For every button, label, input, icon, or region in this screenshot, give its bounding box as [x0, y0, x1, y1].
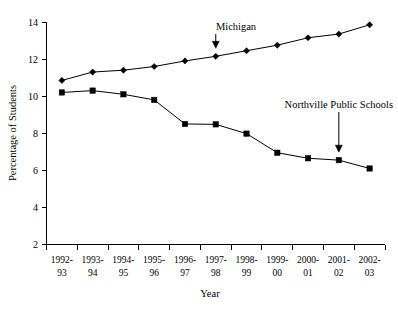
data-point-marker-square — [152, 97, 157, 102]
data-point-marker-square — [367, 166, 372, 171]
data-point-marker-diamond — [90, 69, 96, 75]
x-tick-marks — [47, 245, 386, 250]
x-tick-label: 00 — [273, 268, 283, 278]
y-tick-label: 10 — [28, 91, 38, 102]
x-tick-label: 1992- — [51, 255, 73, 265]
x-tick-label: 93 — [57, 268, 67, 278]
data-point-marker-square — [182, 121, 187, 126]
x-tick-label: 97 — [180, 268, 190, 278]
data-point-marker-diamond — [213, 53, 219, 59]
x-tick-label: 95 — [119, 268, 129, 278]
y-tick-labels: 14 12 10 8 6 4 2 — [28, 17, 38, 250]
y-tick-label: 14 — [28, 17, 38, 28]
data-point-marker-square — [244, 131, 249, 136]
y-tick-label: 6 — [33, 165, 38, 176]
data-point-marker-diamond — [274, 42, 280, 48]
data-point-marker-diamond — [243, 48, 249, 54]
x-axis-title: Year — [200, 288, 220, 299]
data-point-marker-diamond — [120, 67, 126, 73]
data-point-marker-diamond — [336, 31, 342, 37]
x-tick-label: 96 — [149, 268, 159, 278]
x-tick-label: 1996- — [174, 255, 196, 265]
x-tick-label: 1998- — [235, 255, 257, 265]
x-tick-label: 02 — [334, 268, 344, 278]
y-axis-title: Percentage of Students — [7, 85, 18, 181]
y-tick-label: 8 — [33, 128, 38, 139]
data-point-marker-diamond — [182, 58, 188, 64]
series-line — [62, 25, 370, 81]
data-point-marker-square — [90, 88, 95, 93]
line-chart: 14 12 10 8 6 4 2 1992-931993-941994-9519… — [0, 0, 398, 310]
annotation-michigan: Michigan — [212, 21, 257, 48]
data-point-marker-square — [305, 156, 310, 161]
data-point-marker-diamond — [305, 35, 311, 41]
x-tick-label: 98 — [211, 268, 221, 278]
y-tick-label: 2 — [33, 239, 38, 250]
x-tick-labels: 1992-931993-941994-951995-961996-971997-… — [51, 255, 381, 278]
data-point-marker-square — [275, 150, 280, 155]
y-tick-marks — [42, 23, 47, 245]
annotation-northville: Northville Public Schools — [285, 99, 394, 152]
x-tick-label: 1994- — [112, 255, 134, 265]
x-tick-label: 1995- — [143, 255, 165, 265]
y-tick-label: 12 — [28, 54, 38, 65]
data-point-marker-diamond — [367, 22, 373, 28]
x-tick-label: 2002- — [359, 255, 381, 265]
data-point-marker-square — [213, 122, 218, 127]
x-tick-label: 1993- — [82, 255, 104, 265]
chart-container: 14 12 10 8 6 4 2 1992-931993-941994-9519… — [0, 0, 398, 310]
x-tick-label: 99 — [242, 268, 252, 278]
x-tick-label: 1997- — [205, 255, 227, 265]
data-point-marker-diamond — [151, 63, 157, 69]
annotation-label-michigan: Michigan — [216, 21, 257, 32]
data-point-marker-square — [121, 92, 126, 97]
x-tick-label: 03 — [365, 268, 375, 278]
x-tick-label: 2000- — [297, 255, 319, 265]
y-tick-label: 4 — [33, 202, 38, 213]
data-point-marker-diamond — [59, 77, 65, 83]
x-tick-label: 94 — [88, 268, 98, 278]
annotation-label-northville: Northville Public Schools — [285, 99, 394, 110]
x-tick-label: 1999- — [266, 255, 288, 265]
x-tick-label: 01 — [303, 268, 313, 278]
x-tick-label: 2001- — [328, 255, 350, 265]
data-point-marker-square — [336, 157, 341, 162]
data-point-marker-square — [59, 90, 64, 95]
